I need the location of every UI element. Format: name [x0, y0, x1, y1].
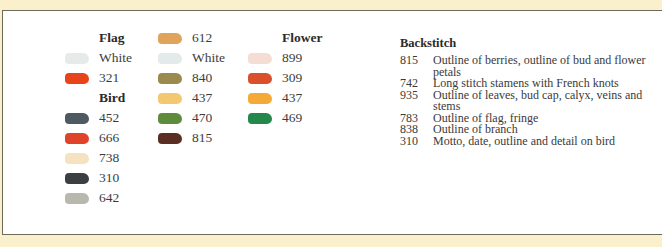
thread-swatch — [65, 113, 89, 124]
thread-swatch — [65, 73, 89, 84]
thread-code: 321 — [99, 70, 119, 86]
thread-code: 666 — [99, 130, 119, 146]
backstitch-row: 310 Motto, date, outline and detail on b… — [400, 136, 650, 148]
backstitch-section: Backstitch 815 Outline of berries, outli… — [400, 36, 650, 147]
backstitch-description: Outline of berries, outline of bud and f… — [433, 55, 650, 78]
thread-swatch — [158, 133, 182, 144]
thread-code: 642 — [99, 190, 119, 206]
thread-swatch — [158, 113, 182, 124]
backstitch-description: Motto, date, outline and detail on bird — [433, 136, 650, 148]
bird-heading: Bird — [99, 90, 125, 106]
thread-swatch — [158, 93, 182, 104]
thread-swatch — [248, 73, 272, 84]
thread-code: 469 — [282, 110, 302, 126]
backstitch-row: 815 Outline of berries, outline of bud a… — [400, 55, 650, 78]
thread-code: 437 — [282, 90, 302, 106]
thread-swatch — [65, 53, 89, 64]
backstitch-heading: Backstitch — [400, 36, 650, 51]
thread-swatch — [158, 33, 182, 44]
thread-swatch — [248, 113, 272, 124]
thread-code: 612 — [192, 30, 212, 46]
thread-code: 452 — [99, 110, 119, 126]
thread-swatch — [65, 133, 89, 144]
thread-swatch — [65, 193, 89, 204]
thread-code: 815 — [192, 130, 212, 146]
thread-code: 470 — [192, 110, 212, 126]
flag-heading: Flag — [99, 30, 125, 46]
thread-code: White — [99, 50, 132, 66]
thread-code: 840 — [192, 70, 212, 86]
thread-swatch — [65, 173, 89, 184]
thread-code: 437 — [192, 90, 212, 106]
thread-code: White — [192, 50, 225, 66]
thread-swatch — [248, 93, 272, 104]
flower-heading: Flower — [282, 30, 322, 46]
thread-swatch — [248, 53, 272, 64]
thread-key-panel: Flag White 321 Bird 452 666 738 310 — [2, 10, 662, 235]
thread-code: 899 — [282, 50, 302, 66]
thread-swatch — [158, 73, 182, 84]
thread-swatch — [65, 153, 89, 164]
backstitch-code: 310 — [400, 136, 433, 148]
thread-code: 309 — [282, 70, 302, 86]
thread-code: 310 — [99, 170, 119, 186]
backstitch-description: Outline of leaves, bud cap, calyx, veins… — [433, 90, 650, 113]
backstitch-code: 935 — [400, 90, 433, 113]
thread-code: 738 — [99, 150, 119, 166]
backstitch-row: 935 Outline of leaves, bud cap, calyx, v… — [400, 90, 650, 113]
backstitch-code: 815 — [400, 55, 433, 78]
thread-swatch — [158, 53, 182, 64]
